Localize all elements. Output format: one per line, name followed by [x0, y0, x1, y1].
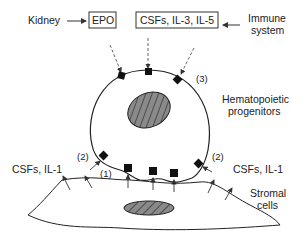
receptor-right-top	[173, 75, 183, 85]
csfs-il1-right-label: CSFs, IL-1	[233, 163, 283, 175]
diagram-canvas: Kidney EPO CSFs, IL-3, IL-5 Immune syste…	[0, 0, 308, 242]
stromal-label-2: cells	[257, 199, 278, 211]
stromal-label-1: Stromal	[250, 187, 286, 199]
immune-label-1: Immune	[248, 12, 286, 24]
receptor-bottom-1	[124, 164, 132, 172]
immune-label-2: system	[251, 24, 285, 36]
receptor-epo	[117, 71, 126, 80]
right-side-arrow	[203, 167, 212, 172]
csfs-il3-il5-label: CSFs, IL-3, IL-5	[140, 14, 214, 26]
receptor-center-top	[145, 68, 152, 75]
csfs-il1-left-label: CSFs, IL-1	[12, 163, 62, 175]
progenitor-nucleus	[122, 85, 176, 134]
marker-2-left: (2)	[77, 151, 89, 162]
kidney-label: Kidney	[28, 14, 61, 26]
receptor-bottom-3	[170, 169, 178, 177]
secretion-arrow-right-1	[208, 180, 214, 193]
marker-3: (3)	[196, 73, 208, 84]
epo-label: EPO	[92, 14, 114, 26]
hematopoietic-label-2: progenitors	[228, 105, 281, 117]
hematopoietic-label-1: Hematopoietic	[222, 93, 289, 105]
receptor-bottom-2	[149, 167, 157, 175]
marker-2-right: (2)	[212, 151, 224, 162]
left-side-arrow	[90, 161, 100, 170]
secretion-arrow-left-1	[63, 176, 70, 190]
csf-signal-arrow-right	[181, 48, 194, 74]
stromal-nucleus	[124, 201, 174, 215]
marker-1: (1)	[100, 168, 112, 179]
receptor-left-side	[99, 151, 109, 161]
epo-signal-arrow	[110, 45, 121, 72]
